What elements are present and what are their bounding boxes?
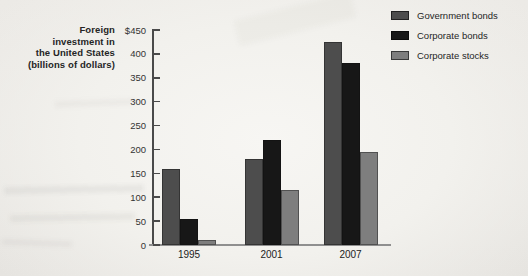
legend-row: Government bonds <box>391 10 498 21</box>
y-tick-mark <box>153 125 160 127</box>
y-tick-label: 300 <box>106 96 146 107</box>
y-tick-mark <box>153 77 160 79</box>
y-tick-mark <box>153 149 160 151</box>
y-tick-label: 0 <box>106 240 146 251</box>
legend-swatch-icon <box>391 51 409 60</box>
bar-corporate-bonds-2007 <box>342 63 360 245</box>
y-tick-mark <box>153 101 160 103</box>
legend-swatch-icon <box>391 11 409 20</box>
scan-artifact <box>2 239 72 247</box>
legend-label: Corporate bonds <box>417 30 488 41</box>
legend-label: Government bonds <box>417 10 498 21</box>
x-category-label-1995: 1995 <box>167 249 211 260</box>
y-tick-mark <box>153 53 160 55</box>
y-axis-line <box>152 29 154 245</box>
scan-artifact <box>234 0 357 46</box>
y-axis-title-line: (billions of dollars) <box>8 59 115 71</box>
y-tick-label: $450 <box>106 25 146 36</box>
y-tick-label: 400 <box>106 48 146 59</box>
scanned-chart-page: Foreign investment in the United States … <box>0 0 528 276</box>
legend-swatch-icon <box>391 31 409 40</box>
y-tick-mark <box>153 196 160 198</box>
y-axis-title: Foreign investment in the United States … <box>8 24 115 70</box>
y-tick-label: 250 <box>106 120 146 131</box>
y-axis-title-line: investment in <box>8 36 115 48</box>
y-tick-label: 200 <box>106 144 146 155</box>
x-category-label-2001: 2001 <box>250 249 294 260</box>
y-tick-mark <box>153 173 160 175</box>
y-tick-mark <box>153 220 160 222</box>
y-tick-label: 100 <box>106 192 146 203</box>
y-tick-label: 350 <box>106 72 146 83</box>
bar-corporate-stocks-1995 <box>198 240 216 245</box>
bar-corporate-bonds-2001 <box>263 140 281 245</box>
legend: Government bondsCorporate bondsCorporate… <box>391 10 498 70</box>
bar-government-bonds-1995 <box>162 169 180 245</box>
y-tick-mark <box>153 244 160 246</box>
x-category-label-2007: 2007 <box>329 249 373 260</box>
legend-row: Corporate bonds <box>391 30 498 41</box>
bar-corporate-bonds-1995 <box>180 219 198 245</box>
bar-government-bonds-2007 <box>324 42 342 245</box>
legend-label: Corporate stocks <box>417 50 489 61</box>
legend-row: Corporate stocks <box>391 50 498 61</box>
bar-corporate-stocks-2001 <box>281 190 299 245</box>
y-axis-title-line: Foreign <box>8 24 115 36</box>
y-tick-label: 50 <box>106 216 146 227</box>
y-tick-label: 150 <box>106 168 146 179</box>
bar-corporate-stocks-2007 <box>360 152 378 245</box>
y-tick-mark <box>153 29 160 31</box>
y-axis-title-line: the United States <box>8 47 115 59</box>
bar-government-bonds-2001 <box>245 159 263 245</box>
